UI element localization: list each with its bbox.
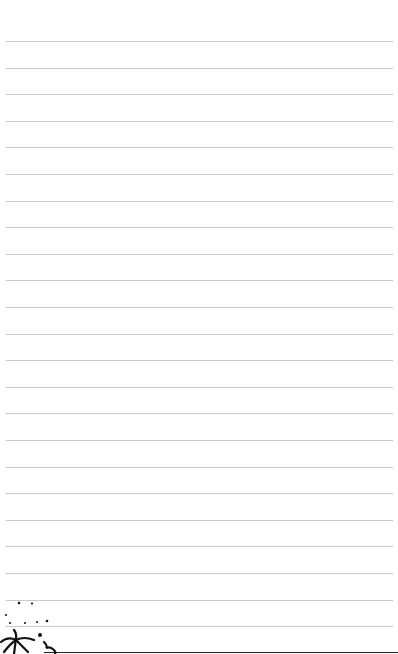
ruled-line [6,546,393,547]
notebook-page [0,0,398,654]
ruled-line [6,387,393,388]
ruled-line [6,147,393,148]
ruled-line [6,201,393,202]
ruled-line [6,334,393,335]
ruled-line [6,413,393,414]
ruled-line [6,440,393,441]
ruled-line [6,121,393,122]
ruled-line [6,467,393,468]
ruled-line [6,227,393,228]
ruled-line [6,360,393,361]
ruled-line [6,307,393,308]
ruled-line [6,520,393,521]
ruled-line [6,68,393,69]
ruled-line [6,174,393,175]
ruled-line [6,493,393,494]
ruled-line [6,573,393,574]
ruled-line [6,41,393,42]
ruled-line [6,280,393,281]
ruled-line [6,254,393,255]
bottom-rule [44,652,398,653]
palm-tree-dots-doodle-icon [0,598,70,654]
ruled-line [6,94,393,95]
